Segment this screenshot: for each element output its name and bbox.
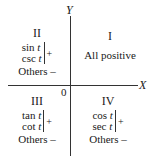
function-brace: tan t cot t [22, 110, 44, 132]
quadrant-numeral: I [74, 31, 146, 42]
others-negative: Others – [80, 134, 136, 145]
function-cot: cot t [22, 121, 41, 132]
positive-sign: + [118, 116, 124, 127]
quadrant-iii: III tan t cot t + Others – [10, 96, 64, 145]
quadrant-i: I All positive [74, 31, 146, 61]
all-positive-text: All positive [74, 50, 146, 61]
quadrant-numeral: III [10, 96, 64, 107]
others-negative: Others – [10, 134, 64, 145]
others-negative: Others – [10, 66, 64, 77]
y-axis-label: Y [66, 4, 73, 16]
function-brace: cos t sec t [92, 110, 115, 132]
function-sec: sec t [92, 121, 112, 132]
positive-sign: + [47, 48, 53, 59]
function-brace: sin t csc t [22, 42, 45, 64]
x-axis [8, 85, 138, 86]
quadrant-iv: IV cos t sec t + Others – [80, 96, 136, 145]
quadrant-numeral: IV [80, 96, 136, 107]
x-axis-label: X [139, 79, 146, 91]
positive-sign: + [46, 116, 52, 127]
positive-functions-group: cos t sec t + [92, 110, 123, 132]
quadrant-ii: II sin t csc t + Others – [10, 28, 64, 77]
y-axis [70, 16, 71, 156]
positive-functions-group: sin t csc t + [22, 42, 53, 64]
quadrant-numeral: II [10, 28, 64, 39]
positive-functions-group: tan t cot t + [22, 110, 52, 132]
function-csc: csc t [22, 53, 42, 64]
